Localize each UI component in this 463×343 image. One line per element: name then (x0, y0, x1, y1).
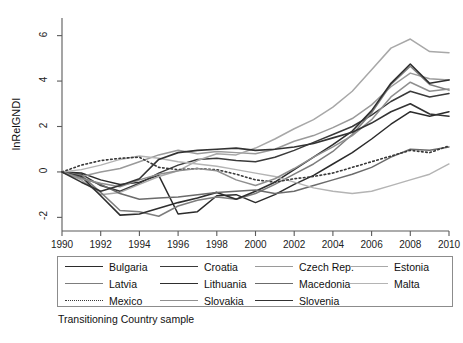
legend-item-slovenia[interactable]: Slovenia (248, 292, 339, 309)
legend-row: LatviaLithuaniaMacedoniaMalta (58, 275, 452, 292)
legend-row: MexicoSlovakiaSlovenia (58, 292, 452, 309)
legend-swatch-line-icon (160, 296, 198, 306)
legend-swatch-line-icon (350, 262, 388, 272)
legend-swatch-line-icon (350, 279, 388, 289)
legend-swatch-line-icon (255, 279, 293, 289)
legend-item-mexico[interactable]: Mexico (58, 292, 142, 309)
legend-label: Mexico (109, 295, 142, 307)
x-axis-ticks (62, 231, 449, 236)
series-line-bulgaria (62, 112, 449, 214)
legend-swatch-dotted-line-icon (65, 296, 103, 306)
legend-label: Slovakia (204, 295, 244, 307)
legend-label: Estonia (394, 261, 429, 273)
legend-item-latvia[interactable]: Latvia (58, 275, 137, 292)
legend-item-croatia[interactable]: Croatia (153, 258, 238, 275)
legend-item-lithuania[interactable]: Lithuania (153, 275, 247, 292)
legend-swatch-line-icon (160, 279, 198, 289)
legend-item-malta[interactable]: Malta (343, 275, 420, 292)
legend-item-slovakia[interactable]: Slovakia (153, 292, 244, 309)
series-line-estonia (62, 39, 449, 195)
legend-item-macedonia[interactable]: Macedonia (248, 275, 350, 292)
legend-swatch-line-icon (65, 279, 103, 289)
series-line-mexico (62, 146, 449, 182)
series-line-slovakia (62, 82, 449, 186)
legend-row: BulgariaCroatiaCzech Rep.Estonia (58, 258, 452, 275)
chart-figure: lnRelGNDI -20246 19901992199419961998200… (0, 0, 463, 343)
legend-label: Slovenia (299, 295, 339, 307)
legend-label: Lithuania (204, 278, 247, 290)
chart-legend: BulgariaCroatiaCzech Rep.EstoniaLatviaLi… (57, 256, 453, 307)
legend-label: Latvia (109, 278, 137, 290)
chart-caption: Transitioning Country sample (58, 313, 194, 325)
legend-item-estonia[interactable]: Estonia (343, 258, 429, 275)
legend-swatch-line-icon (65, 262, 103, 272)
legend-label: Croatia (204, 261, 238, 273)
legend-label: Bulgaria (109, 261, 148, 273)
data-series-group (62, 39, 449, 216)
legend-label: Malta (394, 278, 420, 290)
y-axis-ticks (57, 36, 62, 218)
legend-item-bulgaria[interactable]: Bulgaria (58, 258, 148, 275)
legend-swatch-line-icon (255, 296, 293, 306)
legend-swatch-line-icon (160, 262, 198, 272)
legend-swatch-line-icon (255, 262, 293, 272)
series-line-croatia (62, 91, 449, 191)
legend-item-czech-rep[interactable]: Czech Rep. (248, 258, 354, 275)
